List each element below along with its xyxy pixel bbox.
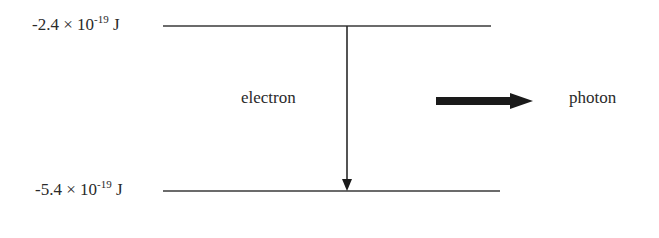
times-sign: × (66, 180, 76, 199)
times-sign: × (63, 15, 73, 34)
upper-energy-label: -2.4 × 10-19 J (32, 15, 120, 35)
base: 10 (77, 15, 94, 34)
lower-mantissa: -5.4 (35, 180, 62, 199)
base: 10 (80, 180, 97, 199)
electron-transition-arrow (342, 26, 352, 191)
photon-emission-arrow (436, 93, 533, 109)
unit: J (113, 15, 120, 34)
exponent: -19 (94, 13, 109, 25)
exponent: -19 (97, 178, 112, 190)
electron-label: electron (241, 88, 296, 108)
upper-mantissa: -2.4 (32, 15, 59, 34)
energy-level-diagram (0, 0, 659, 238)
unit: J (116, 180, 123, 199)
lower-energy-label: -5.4 × 10-19 J (35, 180, 123, 200)
photon-label: photon (569, 88, 616, 108)
